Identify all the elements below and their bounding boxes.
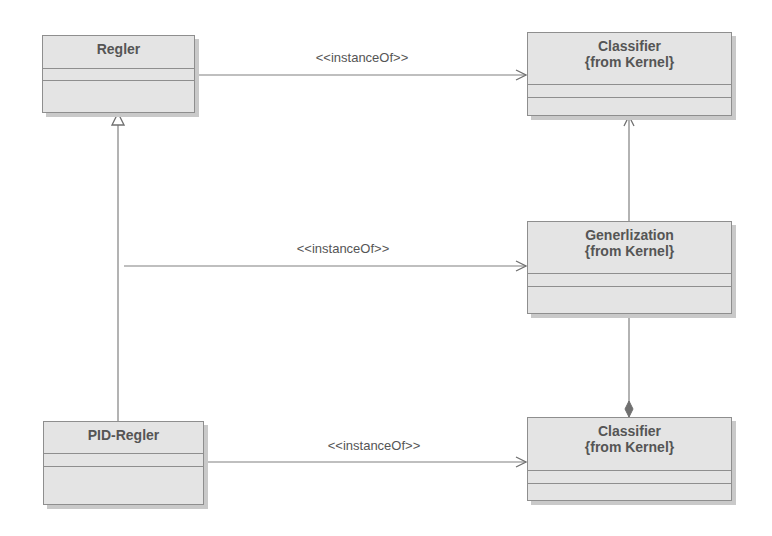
class-package: {from Kernel}	[528, 439, 731, 455]
instanceof-label-middle: <<instanceOf>>	[297, 241, 390, 256]
attributes-section	[44, 454, 203, 467]
attributes-section	[528, 274, 731, 287]
class-name-section: Classifier {from Kernel}	[528, 33, 731, 85]
class-box-regler[interactable]: Regler	[42, 35, 195, 113]
class-box-pid-regler[interactable]: PID-Regler	[43, 421, 204, 505]
attributes-section	[528, 85, 731, 98]
class-name: Regler	[97, 41, 141, 57]
class-name: Generlization	[585, 227, 674, 243]
class-name-section: Regler	[43, 36, 194, 69]
instanceof-label-top: <<instanceOf>>	[316, 50, 409, 65]
class-box-classifier-bottom[interactable]: Classifier {from Kernel}	[527, 417, 732, 501]
operations-section	[43, 81, 194, 112]
class-name-section: PID-Regler	[44, 422, 203, 454]
instanceof-label-bottom: <<instanceOf>>	[328, 438, 421, 453]
class-name: Classifier	[598, 38, 661, 54]
class-box-generalization[interactable]: Generlization {from Kernel}	[527, 221, 732, 314]
class-name: PID-Regler	[88, 427, 160, 443]
operations-section	[528, 98, 731, 115]
operations-section	[528, 484, 731, 500]
attributes-section	[43, 69, 194, 81]
operations-section	[44, 467, 203, 504]
class-box-classifier-top[interactable]: Classifier {from Kernel}	[527, 32, 732, 116]
class-name-section: Classifier {from Kernel}	[528, 418, 731, 471]
class-package: {from Kernel}	[528, 243, 731, 259]
class-name: Classifier	[598, 423, 661, 439]
operations-section	[528, 287, 731, 313]
attributes-section	[528, 471, 731, 484]
class-package: {from Kernel}	[528, 54, 731, 70]
uml-diagram-canvas: Regler Classifier {from Kernel} Generliz…	[0, 0, 772, 536]
class-name-section: Generlization {from Kernel}	[528, 222, 731, 274]
